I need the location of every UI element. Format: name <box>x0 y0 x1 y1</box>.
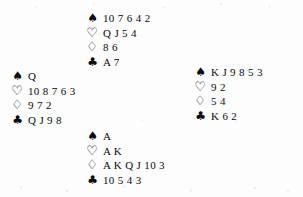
hand-east-diamonds-row: ♢ 5 4 <box>193 94 263 109</box>
hand-east-clubs-ranks: K 6 2 <box>211 109 237 124</box>
hand-north-clubs-ranks: A 7 <box>103 55 120 70</box>
hand-east-hearts-ranks: 9 2 <box>211 80 226 95</box>
heart-icon: ♡ <box>85 144 98 159</box>
hand-south-hearts-row: ♡ A K <box>85 144 165 159</box>
heart-icon: ♡ <box>85 26 98 41</box>
hand-west-hearts-ranks: 10 8 7 6 3 <box>28 84 76 99</box>
spade-icon: ♠ <box>10 69 23 84</box>
hand-south-clubs-ranks: 10 5 4 3 <box>103 173 142 188</box>
club-icon: ♣ <box>85 173 98 188</box>
scan-grain-top <box>0 2 303 10</box>
hand-south-hearts-ranks: A K <box>103 144 122 159</box>
hand-south-clubs-row: ♣ 10 5 4 3 <box>85 173 165 188</box>
hand-west-clubs-row: ♣ Q J 9 8 <box>10 113 76 128</box>
hand-south-spades-row: ♠ A <box>85 129 165 144</box>
hand-east-clubs-row: ♣ K 6 2 <box>193 109 263 124</box>
hand-south-diamonds-row: ♢ A K Q J 10 3 <box>85 158 165 173</box>
club-icon: ♣ <box>10 113 23 128</box>
hand-north-clubs-row: ♣ A 7 <box>85 55 151 70</box>
diamond-icon: ♢ <box>85 158 98 173</box>
hand-south: ♠ A ♡ A K ♢ A K Q J 10 3 ♣ 10 5 4 3 <box>85 129 165 187</box>
hand-north-hearts-ranks: Q J 5 4 <box>103 26 137 41</box>
hand-west: ♠ Q ♡ 10 8 7 6 3 ♢ 9 7 2 ♣ Q J 9 8 <box>10 69 76 127</box>
diamond-icon: ♢ <box>10 98 23 113</box>
hand-north: ♠ 10 7 6 4 2 ♡ Q J 5 4 ♢ 8 6 ♣ A 7 <box>85 11 151 69</box>
hand-north-spades-row: ♠ 10 7 6 4 2 <box>85 11 151 26</box>
hand-east-diamonds-ranks: 5 4 <box>211 94 226 109</box>
diamond-icon: ♢ <box>193 94 206 109</box>
hand-north-diamonds-row: ♢ 8 6 <box>85 40 151 55</box>
hand-south-spades-ranks: A <box>103 129 111 144</box>
hand-south-diamonds-ranks: A K Q J 10 3 <box>103 158 165 173</box>
spade-icon: ♠ <box>85 11 98 26</box>
hand-east: ♠ K J 9 8 5 3 ♡ 9 2 ♢ 5 4 ♣ K 6 2 <box>193 65 263 123</box>
hand-north-diamonds-ranks: 8 6 <box>103 40 118 55</box>
spade-icon: ♠ <box>85 129 98 144</box>
heart-icon: ♡ <box>193 80 206 95</box>
hand-west-clubs-ranks: Q J 9 8 <box>28 113 62 128</box>
heart-icon: ♡ <box>10 84 23 99</box>
club-icon: ♣ <box>85 55 98 70</box>
diamond-icon: ♢ <box>85 40 98 55</box>
hand-east-hearts-row: ♡ 9 2 <box>193 80 263 95</box>
hand-west-hearts-row: ♡ 10 8 7 6 3 <box>10 84 76 99</box>
spade-icon: ♠ <box>193 65 206 80</box>
hand-west-spades-ranks: Q <box>28 69 36 84</box>
hand-north-hearts-row: ♡ Q J 5 4 <box>85 26 151 41</box>
hand-east-spades-row: ♠ K J 9 8 5 3 <box>193 65 263 80</box>
bridge-deal-diagram: ♠ 10 7 6 4 2 ♡ Q J 5 4 ♢ 8 6 ♣ A 7 ♠ Q ♡… <box>0 0 303 197</box>
hand-west-diamonds-ranks: 9 7 2 <box>28 98 52 113</box>
club-icon: ♣ <box>193 109 206 124</box>
hand-west-diamonds-row: ♢ 9 7 2 <box>10 98 76 113</box>
hand-west-spades-row: ♠ Q <box>10 69 76 84</box>
hand-north-spades-ranks: 10 7 6 4 2 <box>103 11 151 26</box>
hand-east-spades-ranks: K J 9 8 5 3 <box>211 65 263 80</box>
